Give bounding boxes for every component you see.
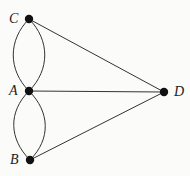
- edge-c-a-right: [29, 19, 45, 91]
- graph-diagram: C A B D: [0, 0, 190, 176]
- label-c: C: [9, 12, 18, 26]
- node-a: [25, 87, 33, 95]
- edge-a-d: [29, 91, 164, 92]
- edge-a-b-left: [14, 91, 30, 160]
- label-b: B: [10, 153, 19, 167]
- node-b: [26, 156, 34, 164]
- edge-c-a-left: [13, 19, 29, 91]
- label-d: D: [174, 85, 184, 99]
- edge-b-d: [30, 92, 164, 160]
- label-a: A: [9, 84, 18, 98]
- edge-a-b-right: [29, 91, 45, 160]
- graph-canvas: [0, 0, 190, 176]
- node-c: [25, 15, 33, 23]
- edge-c-d: [29, 19, 164, 92]
- node-d: [160, 88, 168, 96]
